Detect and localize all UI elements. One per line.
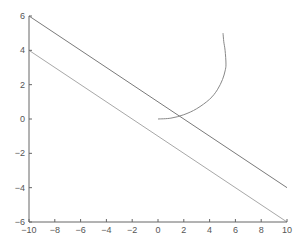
x-tick-label: −8 (50, 225, 60, 235)
x-tick-label: −6 (75, 225, 85, 235)
x-tick-label: −2 (127, 225, 137, 235)
x-tick-label: 2 (181, 225, 186, 235)
x-tick-label: 4 (207, 225, 212, 235)
axes: −10−8−6−4−20246810−6−4−20246 (15, 11, 292, 235)
x-tick-label: 0 (155, 225, 160, 235)
y-tick-label: 2 (20, 80, 25, 90)
series-curve (158, 33, 226, 119)
y-tick-label: 4 (20, 45, 25, 55)
y-tick-label: −4 (15, 183, 25, 193)
series-lower-line (29, 50, 287, 222)
y-tick-label: −6 (15, 217, 25, 227)
y-tick-label: −2 (15, 148, 25, 158)
y-tick-label: 0 (20, 114, 25, 124)
plot-area (29, 16, 287, 222)
line-chart: −10−8−6−4−20246810−6−4−20246 (0, 0, 306, 250)
x-tick-label: 6 (233, 225, 238, 235)
x-tick-label: 8 (259, 225, 264, 235)
series-upper-line (29, 16, 287, 188)
x-tick-label: 10 (282, 225, 292, 235)
y-tick-label: 6 (20, 11, 25, 21)
x-tick-label: −4 (101, 225, 111, 235)
